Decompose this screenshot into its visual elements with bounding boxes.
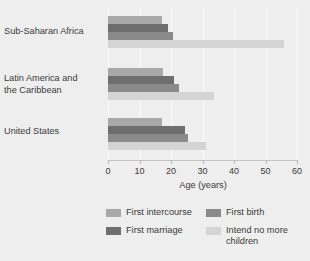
category-label-line2: the Caribbean (4, 85, 104, 97)
bar (108, 68, 163, 76)
bar-group (108, 16, 297, 48)
legend-label: First intercourse (126, 207, 192, 218)
bar (108, 126, 185, 134)
x-axis-tick (234, 160, 235, 164)
x-axis-tick-label: 30 (188, 166, 218, 176)
x-axis-tick-label: 20 (156, 166, 186, 176)
x-axis-tick-label: 10 (125, 166, 155, 176)
x-axis-tick-label: 0 (93, 166, 123, 176)
category-label-line1: Sub-Saharan Africa (4, 26, 104, 38)
bar (108, 84, 179, 92)
bar-group (108, 68, 297, 100)
bar (108, 16, 162, 24)
legend-label: Intend no more children (226, 225, 310, 247)
x-axis-title: Age (years) (108, 180, 298, 190)
bar (108, 32, 173, 40)
bar (108, 134, 188, 142)
x-axis-tick (108, 160, 109, 164)
bar (108, 118, 162, 126)
legend-swatch-icon (206, 209, 221, 217)
legend-item-first-marriage: First marriage (106, 225, 206, 236)
legend-swatch-icon (106, 227, 121, 235)
legend-label: First birth (226, 207, 264, 218)
x-axis-tick (203, 160, 204, 164)
x-axis-tick-label: 50 (251, 166, 281, 176)
category-label-line1: United States (4, 126, 104, 138)
plot-area: Sub-Saharan Africa Latin America and the… (0, 0, 310, 196)
legend-item-first-birth: First birth (206, 207, 310, 218)
bar (108, 24, 168, 32)
legend-swatch-icon (106, 209, 121, 217)
category-label-latin-america-and-the-caribbean: Latin America and the Caribbean (4, 73, 104, 96)
legend-item-intend-no-more-children: Intend no more children (206, 225, 310, 247)
category-label-line1: Latin America and (4, 73, 104, 85)
bar (108, 142, 206, 150)
category-axis-labels: Sub-Saharan Africa Latin America and the… (4, 0, 104, 160)
chart-legend: First intercourse First birth First marr… (106, 207, 310, 257)
bar (108, 40, 284, 48)
x-axis-tick (171, 160, 172, 164)
bar (108, 92, 214, 100)
bar (108, 76, 174, 84)
bar-group (108, 118, 297, 150)
x-axis-tick (140, 160, 141, 164)
bars-and-gridlines (108, 8, 297, 160)
x-axis-tick (297, 160, 298, 164)
x-axis-tick-label: 60 (282, 166, 310, 176)
legend-item-first-intercourse: First intercourse (106, 207, 206, 218)
category-label-united-states: United States (4, 126, 104, 138)
gridline (297, 8, 298, 160)
legend-swatch-icon (206, 227, 221, 235)
x-axis-tick-label: 40 (219, 166, 249, 176)
legend-label: First marriage (126, 225, 183, 236)
x-axis-tick (266, 160, 267, 164)
category-label-sub-saharan-africa: Sub-Saharan Africa (4, 26, 104, 38)
chart-container: Sub-Saharan Africa Latin America and the… (0, 0, 310, 261)
